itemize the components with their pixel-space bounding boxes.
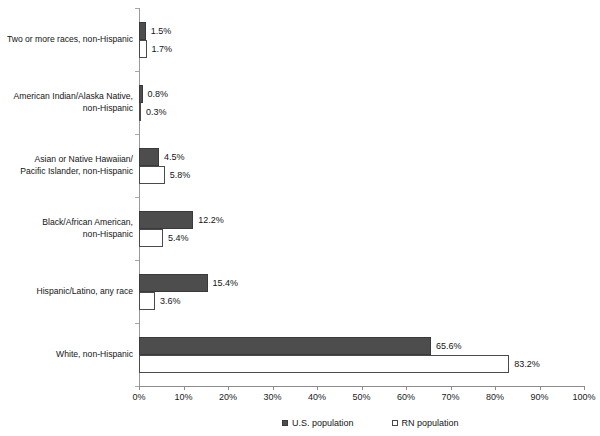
percent-axis-label: 0% (119, 392, 159, 402)
legend-item-us-population: U.S. population (282, 418, 354, 428)
category-label-line: White, non-Hispanic (0, 349, 133, 361)
bar-value-label: 0.8% (148, 85, 169, 103)
legend-label: U.S. population (292, 418, 354, 428)
plot-area: 1.5%0.8%4.5%12.2%15.4%65.6%1.7%0.3%5.8%5… (139, 8, 584, 386)
percent-axis-tick (362, 386, 363, 390)
bar-value-label: 4.5% (164, 148, 185, 166)
bar-us-population (139, 85, 143, 103)
bar-us-population (139, 337, 431, 355)
category-label: Black/African American,non-Hispanic (0, 217, 133, 240)
category-label-line: Hispanic/Latino, any race (0, 286, 133, 298)
percent-axis-tick (184, 386, 185, 390)
bar-us-population (139, 148, 159, 166)
category-axis-tick (135, 8, 139, 9)
category-axis-tick (135, 323, 139, 324)
category-label: Asian or Native Hawaiian/Pacific Islande… (0, 154, 133, 177)
category-label-line: Two or more races, non-Hispanic (0, 34, 133, 46)
category-label-line: Pacific Islander, non-Hispanic (0, 166, 133, 178)
category-label: Two or more races, non-Hispanic (0, 34, 133, 46)
percent-axis-label: 80% (475, 392, 515, 402)
bar-value-label: 1.5% (151, 22, 172, 40)
percent-axis-label: 50% (342, 392, 382, 402)
percent-axis-label: 40% (297, 392, 337, 402)
bar-value-label: 5.8% (170, 166, 191, 184)
category-axis-tick (135, 260, 139, 261)
bar-value-label: 5.4% (168, 229, 189, 247)
percent-axis-label: 70% (431, 392, 471, 402)
percent-axis-tick (273, 386, 274, 390)
bar-value-label: 12.2% (198, 211, 224, 229)
percent-axis-tick (540, 386, 541, 390)
bar-rn-population (139, 355, 509, 373)
percent-axis-label: 90% (520, 392, 560, 402)
category-axis-tick (135, 197, 139, 198)
percent-axis-label: 10% (164, 392, 204, 402)
empty-square-icon (392, 420, 398, 426)
percent-axis-label: 100% (564, 392, 600, 402)
percent-axis-label: 60% (386, 392, 426, 402)
legend-label: RN population (402, 418, 459, 428)
percent-axis-tick (228, 386, 229, 390)
bar-value-label: 65.6% (436, 337, 462, 355)
bar-value-label: 83.2% (514, 355, 540, 373)
bar-us-population (139, 211, 193, 229)
percent-axis-tick (406, 386, 407, 390)
bar-us-population (139, 22, 146, 40)
bar-value-label: 15.4% (213, 274, 239, 292)
bar-rn-population (139, 229, 163, 247)
bar-rn-population (139, 103, 141, 121)
category-label-line: Black/African American, (0, 217, 133, 229)
percent-axis-tick (317, 386, 318, 390)
category-label-line: Asian or Native Hawaiian/ (0, 154, 133, 166)
chart-legend: U.S. populationRN population (282, 418, 459, 428)
bar-value-label: 0.3% (146, 103, 167, 121)
category-axis-tick (135, 71, 139, 72)
percent-axis-tick (584, 386, 585, 390)
percent-axis-label: 30% (253, 392, 293, 402)
category-label: American Indian/Alaska Native,non-Hispan… (0, 91, 133, 114)
category-label: Hispanic/Latino, any race (0, 286, 133, 298)
category-label: White, non-Hispanic (0, 349, 133, 361)
percent-axis-tick (495, 386, 496, 390)
percent-axis-tick (139, 386, 140, 390)
percent-axis-label: 20% (208, 392, 248, 402)
filled-square-icon (282, 420, 288, 426)
bar-us-population (139, 274, 208, 292)
category-label-line: non-Hispanic (0, 229, 133, 241)
category-label-line: American Indian/Alaska Native, (0, 91, 133, 103)
percent-axis-tick (451, 386, 452, 390)
bar-rn-population (139, 166, 165, 184)
bar-rn-population (139, 40, 147, 58)
bar-value-label: 1.7% (152, 40, 173, 58)
category-axis-tick (135, 134, 139, 135)
legend-item-rn-population: RN population (392, 418, 459, 428)
category-label-line: non-Hispanic (0, 103, 133, 115)
bar-rn-population (139, 292, 155, 310)
bar-value-label: 3.6% (160, 292, 181, 310)
